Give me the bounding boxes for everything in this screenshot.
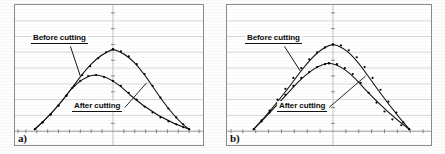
chart-panel-b: Before cutting After cutting b): [226, 4, 432, 146]
panel-label-a: a): [18, 133, 27, 144]
chart-panel-a: Before cutting After cutting a): [14, 4, 204, 146]
plot-area-b: [227, 5, 431, 145]
figure-container: Before cutting After cutting a): [0, 0, 445, 154]
leader-line-after-a: [125, 83, 147, 108]
annotation-before-cutting-b: Before cutting: [245, 33, 302, 44]
plot-area-a: [15, 5, 203, 145]
leader-line-before-a: [70, 46, 80, 76]
markers-after-cutting-b: [253, 62, 411, 130]
curve-before-cutting-a: [35, 49, 189, 129]
curve-before-cutting-b: [254, 44, 409, 129]
curve-after-cutting-b: [254, 63, 409, 129]
annotation-before-cutting-a: Before cutting: [31, 33, 88, 44]
chart-svg-b: [227, 5, 431, 145]
annotation-after-cutting-a: After cutting: [72, 101, 122, 112]
leader-line-before-b: [284, 46, 300, 71]
markers-before-cutting-b: [253, 43, 411, 130]
axis-lines-b: [227, 5, 431, 145]
annotation-after-cutting-b: After cutting: [277, 101, 327, 112]
chart-svg-a: [15, 5, 203, 145]
panel-label-b: b): [230, 133, 239, 144]
